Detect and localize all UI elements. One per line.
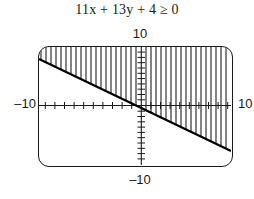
y-max-label: 10	[113, 26, 167, 41]
x-max-label: 10	[238, 96, 254, 111]
graph-plot-area	[39, 47, 231, 165]
graph-figure: 11x + 13y + 4 ≥ 0 10 –10 10 –10	[0, 0, 254, 199]
y-min-label: –10	[113, 172, 167, 187]
inequality-expression-title: 11x + 13y + 4 ≥ 0	[0, 2, 254, 18]
x-min-label: –10	[2, 96, 36, 111]
calculator-screen	[38, 46, 233, 167]
